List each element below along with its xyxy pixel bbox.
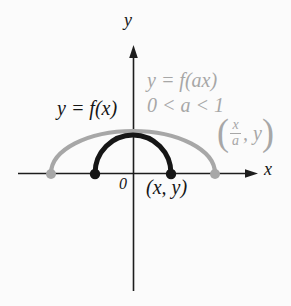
- origin-label: 0: [119, 175, 127, 193]
- open-paren: (: [217, 113, 229, 151]
- function-stretch-diagram: y x 0 y = f(x) y = f(ax) 0 < a < 1 (x, y…: [0, 0, 291, 306]
- x-axis-label: x: [264, 160, 272, 180]
- curve-f-of-x-label: y = f(x): [57, 97, 117, 119]
- fraction-numerator: x: [230, 118, 240, 133]
- diagram-canvas: [0, 0, 291, 306]
- black-endpoint-left-dot: [90, 169, 100, 179]
- curve-f-of-ax-condition: 0 < a < 1: [147, 93, 224, 118]
- comma-y-text: , y: [243, 122, 262, 144]
- y-axis-arrow-icon: [129, 45, 138, 58]
- point-xy-label: (x, y): [146, 176, 187, 198]
- fraction-denominator: a: [230, 133, 241, 149]
- curve-f-of-ax-label: y = f(ax) 0 < a < 1: [147, 68, 224, 118]
- gray-endpoint-right-dot: [210, 169, 220, 179]
- close-paren: ): [262, 113, 274, 151]
- curve-f-of-ax-equation: y = f(ax): [147, 68, 224, 93]
- x-axis-arrow-icon: [245, 169, 258, 178]
- y-axis-label: y: [124, 11, 132, 31]
- point-x-over-a-label: ( x a , y ): [217, 115, 274, 151]
- gray-endpoint-left-dot: [46, 169, 56, 179]
- fraction-x-over-a: x a: [230, 118, 241, 148]
